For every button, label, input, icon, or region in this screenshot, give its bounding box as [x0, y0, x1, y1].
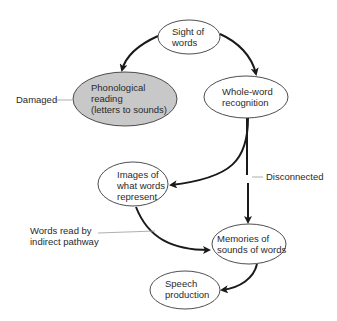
node-phonological-reading: Phonological reading (letters to sounds)	[73, 72, 177, 126]
node-images-of-what-words-represent: Images of what words represent	[98, 162, 168, 206]
node-speech-line-2: production	[165, 289, 209, 300]
annotation-indirect-line-2: indirect pathway	[30, 236, 99, 247]
node-memories-of-sounds: Memories of sounds of words	[212, 224, 286, 264]
node-memories-line-2: sounds of words	[217, 244, 286, 255]
edge-images-to-memories	[136, 207, 209, 250]
edge-memories-to-speech	[222, 264, 257, 290]
node-memories-line-1: Memories of	[217, 233, 270, 244]
edge-sight-to-phonological	[122, 36, 158, 70]
node-images-line-2: what words	[116, 180, 165, 191]
node-images-line-3: represent	[117, 191, 157, 202]
edge-whole-word-to-images	[171, 118, 248, 185]
node-sight-line-1: Sight of	[172, 26, 205, 37]
node-speech-line-1: Speech	[165, 278, 197, 289]
node-speech-production: Speech production	[150, 271, 220, 309]
node-whole-word-line-2: recognition	[222, 97, 268, 108]
node-phonological-line-3: (letters to sounds)	[91, 104, 167, 115]
node-whole-word-recognition: Whole-word recognition	[204, 76, 288, 118]
node-phonological-line-1: Phonological	[91, 82, 145, 93]
reading-pathway-diagram: Sight of words Phonological reading (let…	[0, 0, 337, 321]
node-ellipse-damaged	[73, 72, 177, 126]
annotation-indirect-line-1: Words read by	[30, 225, 92, 236]
annotation-disconnected: Disconnected	[266, 171, 324, 182]
node-whole-word-line-1: Whole-word	[222, 86, 273, 97]
node-sight-of-words: Sight of words	[158, 20, 220, 54]
indirect-leader-line	[98, 231, 155, 233]
node-phonological-line-2: reading	[91, 93, 123, 104]
node-sight-line-2: words	[171, 37, 198, 48]
annotation-damaged: Damaged	[16, 94, 57, 105]
node-images-line-1: Images of	[117, 169, 159, 180]
edge-sight-to-whole-word	[220, 34, 256, 74]
